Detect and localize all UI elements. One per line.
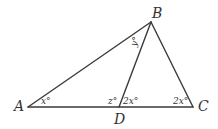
angle-label-adb: z° <box>107 96 117 106</box>
angle-label-abd: y° <box>128 35 141 48</box>
vertex-label-a: A <box>12 98 24 114</box>
angle-label-a: x° <box>41 96 51 106</box>
angle-label-bdc: 2x° <box>122 96 138 106</box>
vertex-label-d: D <box>113 111 125 127</box>
vertex-label-b: B <box>151 5 162 21</box>
triangle-diagram: A B C D x° y° z° 2x° 2x° <box>0 0 218 129</box>
angle-label-c: 2x° <box>172 96 188 106</box>
segment-bc <box>151 22 193 107</box>
segment-ab <box>28 22 151 107</box>
vertex-label-c: C <box>198 98 209 114</box>
segment-bd <box>119 22 151 107</box>
